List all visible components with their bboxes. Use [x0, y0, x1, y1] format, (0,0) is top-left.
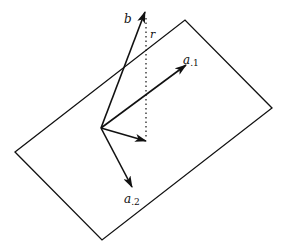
label-a2-subscript: .2 [131, 197, 140, 207]
label-a2: a.2 [124, 192, 140, 207]
projection-vector-arrow [101, 128, 146, 141]
vector-a2-arrow [101, 128, 132, 187]
label-a1-base: a [183, 53, 190, 67]
vector-b-arrow [101, 12, 145, 128]
label-a2-base: a [124, 192, 131, 206]
label-r: r [150, 28, 156, 41]
label-a1-subscript: .1 [190, 58, 199, 68]
diagram-canvas: b r a.1 a.2 [0, 0, 286, 246]
plane-parallelogram [15, 20, 272, 240]
label-a1: a.1 [183, 53, 199, 68]
label-b: b [124, 12, 132, 26]
